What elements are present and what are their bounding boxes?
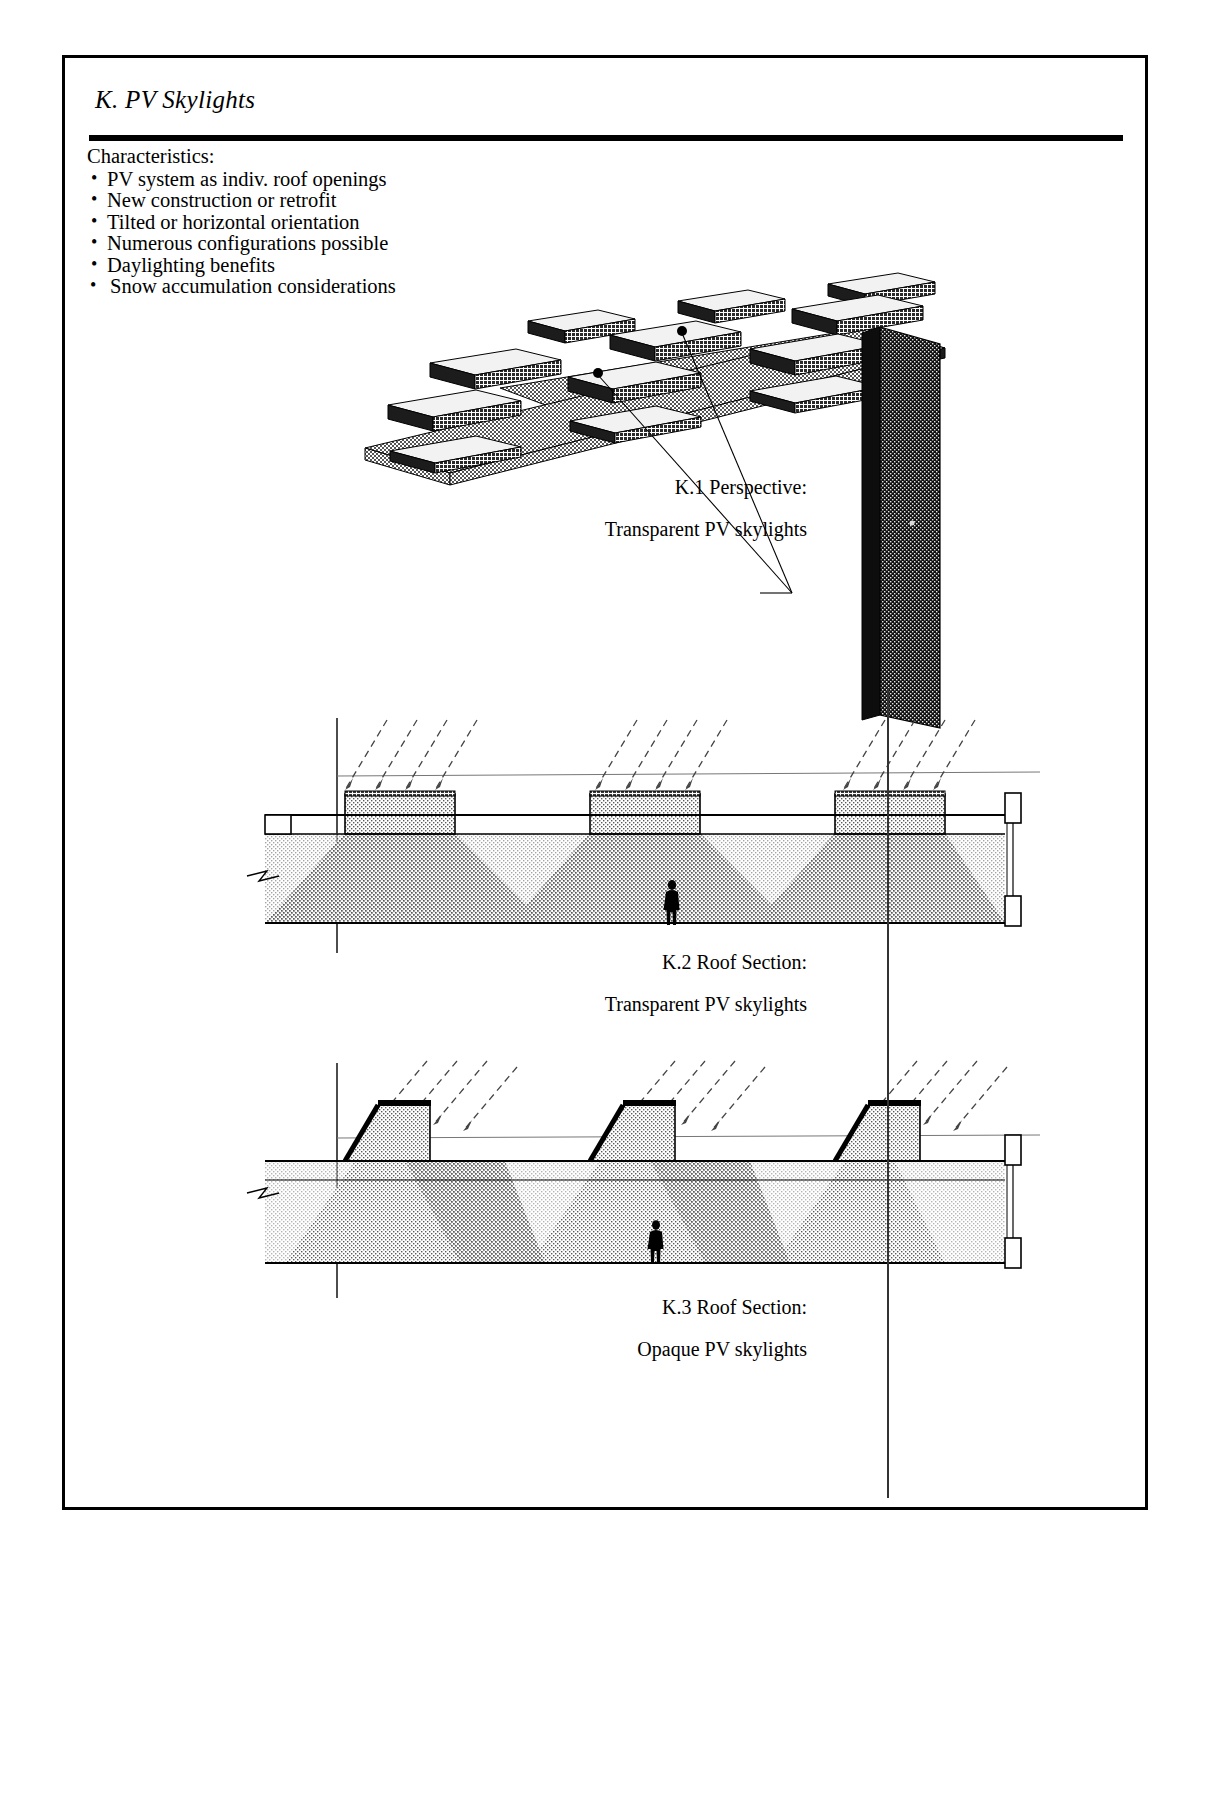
caption-line-1: K.3 Roof Section:	[395, 1286, 807, 1328]
sun-ray-arrowheads	[345, 778, 941, 790]
list-item: Tilted or horizontal orientation	[87, 212, 396, 234]
page-frame: K. PV Skylights Characteristics: PV syst…	[62, 55, 1148, 1510]
figure-caption-k2: K.2 Roof Section: Transparent PV skyligh…	[395, 941, 807, 1025]
figure-caption-k1: K.1 Perspective: Transparent PV skylight…	[395, 466, 807, 550]
skylight-monitor	[345, 791, 455, 834]
roof-slab	[265, 833, 1005, 923]
title-rule	[89, 135, 1123, 141]
skylight-marker-dot	[677, 326, 687, 336]
figure-k2-roof-section	[245, 698, 1045, 958]
right-wall-jamb	[1005, 1135, 1021, 1268]
page-title: K. PV Skylights	[95, 86, 255, 114]
list-item: PV system as indiv. roof openings	[87, 169, 396, 191]
datum-line	[337, 1135, 1040, 1138]
figure-caption-k3: K.3 Roof Section: Opaque PV skylights	[395, 1286, 807, 1370]
caption-line-2: Opaque PV skylights	[395, 1328, 807, 1370]
sawtooth-monitor	[345, 1103, 431, 1161]
skylight-box	[678, 290, 785, 323]
figure-k3-roof-section	[245, 1043, 1045, 1303]
caption-line-2: Transparent PV skylights	[395, 508, 807, 550]
list-item: New construction or retrofit	[87, 190, 396, 212]
right-wall-jamb	[1005, 793, 1021, 926]
wall-panel	[862, 327, 940, 728]
sawtooth-monitor	[835, 1103, 921, 1161]
left-end-wall	[265, 815, 291, 834]
datum-line	[337, 772, 1040, 776]
sawtooth-monitor	[590, 1103, 676, 1161]
caption-line-1: K.1 Perspective:	[395, 466, 807, 508]
caption-line-1: K.2 Roof Section:	[395, 941, 807, 983]
caption-line-2: Transparent PV skylights	[395, 983, 807, 1025]
skylight-marker-dot	[593, 368, 603, 378]
vertical-reference-line	[887, 688, 889, 1498]
list-item: Numerous configurations possible	[87, 233, 396, 255]
characteristics-label: Characteristics:	[87, 146, 396, 168]
page: K. PV Skylights Characteristics: PV syst…	[0, 0, 1212, 1804]
roof-slab	[265, 1161, 1005, 1263]
skylight-monitor	[590, 791, 700, 834]
skylight-box	[792, 295, 923, 335]
skylight-monitor	[835, 791, 945, 834]
